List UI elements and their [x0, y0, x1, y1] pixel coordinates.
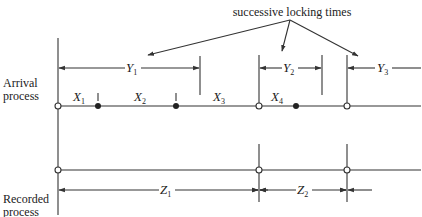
- open-point-origin: [55, 103, 61, 109]
- locking-times-diagram: successive locking times Arrival process…: [0, 0, 422, 217]
- solid-point-1: [95, 103, 101, 109]
- annotation-arrows: [148, 20, 358, 56]
- arrival-label-line1: Arrival: [3, 76, 38, 90]
- x1-label: X1: [72, 89, 85, 106]
- arrow-to-lock-2: [282, 20, 290, 51]
- x4-label: X4: [270, 89, 283, 106]
- y2-label: Y2: [283, 60, 294, 77]
- recorded-point-1: [256, 167, 262, 173]
- y1-label: Y1: [126, 60, 137, 77]
- arrow-to-lock-1: [148, 20, 290, 55]
- y3-label: Y3: [377, 60, 388, 77]
- z2-label: Z2: [297, 182, 308, 199]
- x3-label: X3: [212, 89, 225, 106]
- open-point-lock-2: [256, 103, 262, 109]
- open-point-lock-3: [344, 103, 350, 109]
- solid-point-2: [173, 103, 179, 109]
- x2-label: X2: [133, 89, 146, 106]
- recorded-point-2: [344, 167, 350, 173]
- z1-label: Z1: [160, 182, 171, 199]
- recorded-label-line1: Recorded: [3, 192, 49, 206]
- recorded-origin-point: [55, 167, 61, 173]
- recorded-label-line2: process: [3, 205, 39, 217]
- solid-point-3: [293, 103, 299, 109]
- arrival-label-line2: process: [3, 89, 39, 103]
- arrow-to-lock-3: [290, 20, 358, 56]
- annotation-title: successive locking times: [233, 5, 352, 19]
